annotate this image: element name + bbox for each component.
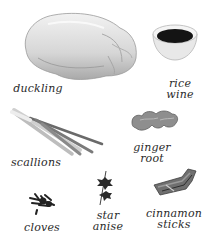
ginger-root-label: ginger root <box>133 142 171 164</box>
scallions-icon <box>10 106 105 158</box>
cloves-label: cloves <box>22 222 62 233</box>
ginger-root-icon <box>130 108 180 134</box>
cinnamon-sticks-label: cinnamon sticks <box>144 208 204 230</box>
scallions-label: scallions <box>10 157 62 168</box>
duckling-label: duckling <box>12 83 64 94</box>
ingredients-illustration: duckling rice wine scallions <box>0 0 215 251</box>
rice-wine-label: rice wine <box>160 78 200 100</box>
duckling-icon <box>18 10 142 84</box>
star-anise-icon <box>92 171 118 207</box>
cinnamon-sticks-icon <box>152 167 200 199</box>
cloves-icon <box>27 190 57 216</box>
rice-wine-bowl-icon <box>150 22 200 62</box>
star-anise-label: star anise <box>90 210 126 232</box>
